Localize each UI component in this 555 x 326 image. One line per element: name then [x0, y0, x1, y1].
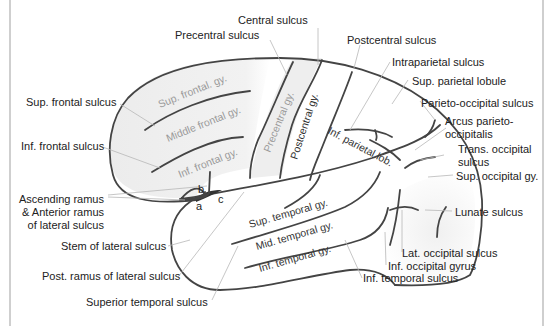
label-postcentral-sulcus: Postcentral sulcus	[347, 34, 437, 46]
frame-border-right	[542, 0, 544, 326]
trans-occipital-sulcus	[405, 157, 435, 168]
letter-c: c	[218, 193, 224, 205]
label-ascending-line2: & Anterior ramus	[22, 206, 104, 218]
intraparietal-branch1	[375, 130, 377, 140]
frame-border-left	[9, 0, 11, 326]
label-arcus-line2: occipitalis	[445, 128, 493, 140]
label-superior-temporal-sulcus: Superior temporal sulcus	[86, 296, 208, 308]
label-intraparietal-sulcus: Intraparietal sulcus	[392, 56, 485, 68]
label-arcus-line1: Arcus parieto-	[445, 115, 514, 127]
label-lat-occipital-sulcus: Lat. occipital sulcus	[402, 247, 498, 259]
label-stem-lateral: Stem of lateral sulcus	[61, 240, 167, 252]
label-sup-parietal-lobule: Sup. parietal lobule	[412, 75, 506, 87]
label-trans-occipital-line1: Trans. occipital	[458, 143, 532, 155]
diagram-svg: Central sulcus Precentral sulcus Postcen…	[0, 0, 555, 326]
letter-a: a	[196, 200, 203, 212]
label-ascending-line1: Ascending ramus	[19, 193, 104, 205]
label-inf-occipital-gyrus: Inf. occipital gyrus	[388, 260, 477, 272]
label-central-sulcus: Central sulcus	[238, 14, 308, 26]
label-sup-frontal-sulcus: Sup. frontal sulcus	[26, 96, 117, 108]
label-inf-temporal-sulcus: Inf. temporal sulcus	[363, 272, 459, 284]
label-inf-frontal-sulcus: Inf. frontal sulcus	[21, 140, 105, 152]
label-parieto-occipital-sulcus: Parieto-occipital sulcus	[421, 97, 534, 109]
letter-b: b	[198, 183, 204, 195]
parieto-occipital-sulcus	[425, 120, 435, 137]
label-post-ramus: Post. ramus of lateral sulcus	[42, 270, 181, 282]
label-lunate-sulcus: Lunate sulcus	[455, 206, 523, 218]
label-trans-occipital-line2: sulcus	[458, 156, 490, 168]
label-ascending-line3: of lateral sulcus	[28, 219, 105, 231]
label-sup-occipital-gy: Sup. occipital gy.	[456, 170, 538, 182]
ascending-ramus	[209, 172, 210, 193]
label-precentral-sulcus: Precentral sulcus	[175, 29, 260, 41]
brain-diagram: Central sulcus Precentral sulcus Postcen…	[0, 0, 555, 326]
